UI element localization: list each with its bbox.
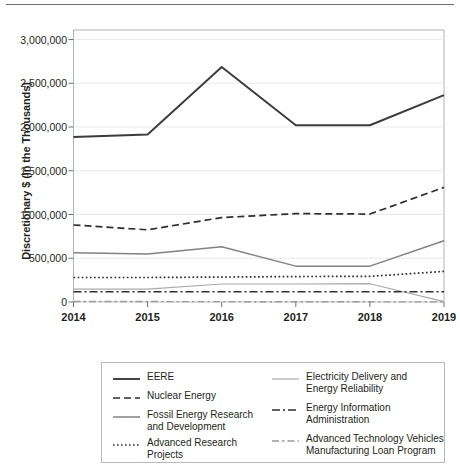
figure-root: Discretionary $ (in the Thousands) 3,000… <box>0 0 460 473</box>
legend-label: Advanced Research Projects <box>147 437 237 462</box>
legend-label: Nuclear Energy <box>147 390 216 402</box>
x-tick-label: 2018 <box>358 311 382 323</box>
legend-label: Fossil Energy Research and Development <box>147 409 253 434</box>
x-tick-label: 2017 <box>284 311 308 323</box>
legend-label: EERE <box>147 371 174 383</box>
legend-item[interactable]: Fossil Energy Research and Development <box>113 409 253 434</box>
legend-line-swatch <box>113 440 140 450</box>
legend-item[interactable]: Electricity Delivery and Energy Reliabil… <box>272 371 407 396</box>
y-tick-label: 2,000,000 <box>5 121 67 133</box>
y-tick-label: 500,000 <box>5 252 67 264</box>
legend-item[interactable]: EERE <box>113 371 174 384</box>
plot-frame <box>74 30 445 302</box>
x-tick-label: 2019 <box>432 311 456 323</box>
legend-item[interactable]: Nuclear Energy <box>113 390 216 403</box>
legend-item[interactable]: Energy Information Administration <box>272 402 391 427</box>
line-chart-plot <box>0 10 460 335</box>
chart-area: Discretionary $ (in the Thousands) 3,000… <box>0 10 460 335</box>
chart-legend: EERENuclear EnergyFossil Energy Research… <box>101 362 445 463</box>
legend-line-swatch <box>272 374 299 384</box>
legend-label: Electricity Delivery and Energy Reliabil… <box>306 371 407 396</box>
legend-line-swatch <box>113 393 140 403</box>
y-tick-label: 2,500,000 <box>5 77 67 89</box>
legend-line-swatch <box>272 436 299 446</box>
legend-line-swatch <box>113 412 140 422</box>
legend-item[interactable]: Advanced Technology Vehicles Manufacturi… <box>272 433 444 458</box>
y-axis-tick-labels: 3,000,0002,500,0002,000,0001,500,0001,00… <box>5 10 67 335</box>
x-tick-label: 2016 <box>209 311 233 323</box>
legend-label: Energy Information Administration <box>306 402 391 427</box>
legend-line-swatch <box>272 405 299 415</box>
x-tick-label: 2014 <box>61 311 85 323</box>
x-tick-label: 2015 <box>135 311 159 323</box>
legend-line-swatch <box>113 374 140 384</box>
y-tick-label: 3,000,000 <box>5 34 67 46</box>
y-tick-label: 1,500,000 <box>5 165 67 177</box>
y-tick-label: 0 <box>5 296 67 308</box>
y-tick-label: 1,000,000 <box>5 209 67 221</box>
legend-label: Advanced Technology Vehicles Manufacturi… <box>306 433 444 458</box>
legend-item[interactable]: Advanced Research Projects <box>113 437 237 462</box>
top-horizontal-rule <box>6 4 454 5</box>
